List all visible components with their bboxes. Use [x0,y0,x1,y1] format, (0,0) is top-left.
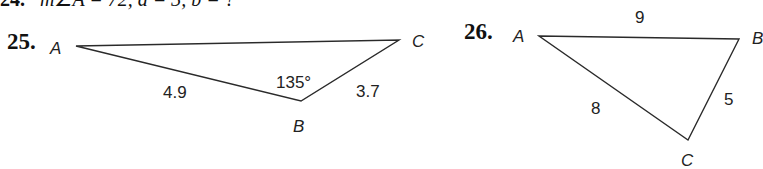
triangle-26-side-bc: 5 [724,91,733,108]
problem-number-25: 25. [7,30,36,53]
problem-number-26: 26. [464,20,493,43]
triangle-25-vertex-a: A [50,40,61,57]
triangle-25-vertex-b: B [293,118,304,135]
triangle-26-vertex-a: A [513,28,524,45]
triangle-25-angle-b: 135° [276,74,311,91]
triangle-25-side-ab: 4.9 [163,84,187,101]
triangle-26-vertex-b: B [752,30,763,47]
triangle-25 [76,40,399,101]
triangle-26 [539,36,739,140]
triangle-25-vertex-c: C [412,33,424,50]
triangle-26-side-ab: 9 [635,9,644,26]
triangle-25-side-bc: 3.7 [356,83,380,100]
triangle-26-vertex-c: C [681,152,693,169]
triangle-26-side-ac: 8 [591,100,600,117]
